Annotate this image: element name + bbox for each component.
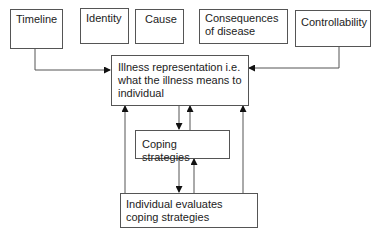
controllability-box: Controllability [295, 10, 371, 47]
evaluation-label: Individual evaluates coping strategies [126, 198, 223, 223]
coping-strategies-box: Coping strategies [135, 130, 230, 159]
timeline-label: Timeline [16, 13, 57, 25]
identity-box: Identity [80, 8, 129, 44]
evaluation-box: Individual evaluates coping strategies [120, 193, 258, 228]
controllability-label: Controllability [301, 16, 367, 28]
cause-box: Cause [135, 9, 184, 44]
consequences-label: Consequences of disease [205, 12, 278, 37]
illness-representation-label: Illness representation i.e. what the ill… [118, 61, 242, 99]
illness-representation-box: Illness representation i.e. what the ill… [111, 55, 249, 106]
cause-label: Cause [145, 13, 177, 25]
identity-label: Identity [86, 12, 121, 24]
coping-strategies-label: Coping strategies [142, 138, 190, 163]
timeline-box: Timeline [10, 9, 63, 49]
consequences-box: Consequences of disease [199, 9, 288, 44]
